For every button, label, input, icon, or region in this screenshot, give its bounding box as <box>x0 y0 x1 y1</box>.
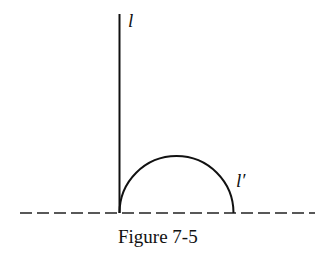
label-l-prime: l′ <box>236 170 246 191</box>
figure-caption: Figure 7-5 <box>118 226 198 247</box>
label-l: l <box>128 10 133 31</box>
figure-canvas: l l′ Figure 7-5 <box>0 0 329 263</box>
semicircle-l-prime <box>120 156 234 213</box>
